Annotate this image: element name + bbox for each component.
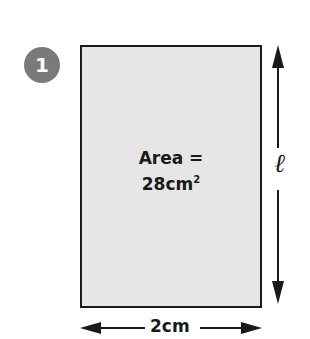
dimension-arrows xyxy=(0,0,310,339)
height-label: ℓ xyxy=(274,148,285,179)
width-label: 2cm xyxy=(150,316,190,336)
